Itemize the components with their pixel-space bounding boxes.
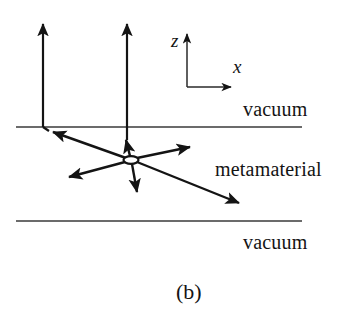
axis-label-z: z: [171, 31, 178, 50]
ray-node-lower-left: [69, 162, 125, 177]
axis-label-x: x: [233, 57, 241, 76]
figure-container: vacuum metamaterial vacuum z x (b): [0, 0, 349, 323]
region-label-vacuum-top: vacuum: [243, 99, 308, 119]
region-label-metamaterial: metamaterial: [215, 159, 322, 179]
ray-node-lower-middle: [132, 164, 137, 192]
ray-node-upper-left: [53, 132, 126, 158]
ray-node-upper-right: [137, 147, 190, 158]
figure-caption: (b): [176, 281, 202, 303]
ray-node-upper-middle: [126, 140, 130, 156]
scattering-node: [124, 156, 139, 164]
region-label-vacuum-bottom: vacuum: [243, 232, 308, 252]
